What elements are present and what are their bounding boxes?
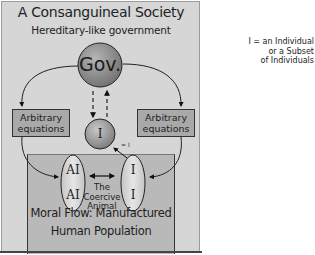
right-ellipse-bottom-label: I [121, 188, 145, 202]
left-box-line-1: Arbitrary [13, 112, 69, 123]
left-box-line-2: equations [13, 123, 69, 134]
gov-label: Gov. [73, 53, 127, 75]
diagram-title: A Consanguineal Society [0, 4, 202, 20]
bottom-caption: Moral Flow: Manufactured Human Populatio… [27, 204, 175, 240]
right-arbitrary-equations-box: Arbitrary equations [137, 109, 195, 137]
left-ellipse-top-label: AI [61, 163, 85, 177]
gov-to-left-box-arrow [22, 66, 79, 106]
ellipse-to-i-arrow [114, 148, 127, 158]
right-box-line-1: Arbitrary [138, 112, 194, 123]
equals-i-annotation: = I [121, 141, 130, 148]
caption-line-2: Human Population [27, 222, 175, 240]
caption-line-1: Moral Flow: Manufactured [27, 204, 175, 222]
individual-label: I [88, 127, 112, 141]
left-arbitrary-equations-box: Arbitrary equations [12, 109, 70, 137]
right-box-to-ellipse-arrow [150, 137, 181, 177]
diagram-subtitle: Hereditary-like government [0, 24, 202, 36]
right-ellipse-top-label: I [121, 163, 145, 177]
left-box-to-ellipse-arrow [22, 137, 58, 177]
right-box-line-2: equations [138, 123, 194, 134]
gov-to-right-box-arrow [123, 64, 181, 106]
